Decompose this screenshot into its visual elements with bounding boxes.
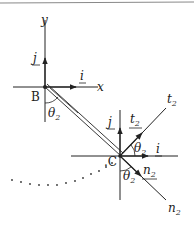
y-axis-label: y — [40, 13, 48, 27]
top-border — [0, 2, 194, 3]
theta-label-b: θ2 — [48, 106, 60, 122]
point-c-label: .C — [104, 155, 117, 169]
i-label-c: i — [156, 142, 160, 156]
theta-label-c-lower: θ2 — [123, 169, 135, 185]
n2-axis-label: n2 — [168, 201, 181, 217]
x-axis-label: x — [97, 80, 104, 94]
n2-vector-label: n2 — [143, 163, 156, 179]
trajectory-dots — [11, 162, 113, 186]
t2-vector-label: t2 — [130, 112, 140, 128]
t2-axis-label: t2 — [167, 92, 177, 108]
frame-b — [13, 20, 98, 122]
i-label-b: i — [80, 69, 84, 83]
frame-c — [71, 108, 178, 200]
rod-kinematics-diagram: y x j i B θ2 j t2 t2 θ2 i .C θ2 n2 n2 — [0, 0, 194, 226]
point-b-label: B — [31, 90, 40, 104]
theta-label-c-upper: θ2 — [134, 141, 146, 157]
j-label-b: j — [30, 51, 37, 65]
point-c-joint — [118, 154, 122, 158]
theta-arc-b — [45, 97, 58, 103]
j-label-c: j — [105, 115, 112, 129]
